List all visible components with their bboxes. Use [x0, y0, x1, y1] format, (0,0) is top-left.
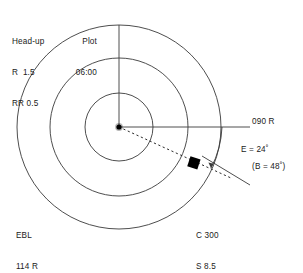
target-marker[interactable]: [187, 156, 200, 169]
plot-label: Plot: [76, 37, 97, 47]
angle-e-label: E = 24˚: [241, 145, 269, 155]
target-course-speed-block: C 300 S 8.5: [196, 210, 219, 273]
ebl-bearing-value: 114 R: [16, 262, 38, 272]
target-course-value: C 300: [196, 231, 219, 241]
range-label: R 1.5: [12, 68, 44, 78]
headup-info-block: Head-up R 1.5 RR 0.5: [12, 16, 44, 130]
bearing-090-label: 090 R: [252, 117, 275, 127]
angle-arc: [211, 127, 222, 168]
ring-range-label: RR 0.5: [12, 99, 44, 109]
own-ship-marker-core: [116, 124, 121, 129]
angle-b-label: (B = 48˚): [252, 162, 285, 172]
electronic-bearing-line: [119, 127, 231, 178]
headup-mode-label: Head-up: [12, 37, 44, 47]
ebl-label: EBL: [16, 231, 38, 241]
relative-motion-line: [202, 156, 250, 185]
plot-time-label: 06:00: [76, 68, 97, 78]
target-speed-value: S 8.5: [196, 262, 219, 272]
ebl-info-block: EBL 114 R: [16, 210, 38, 273]
